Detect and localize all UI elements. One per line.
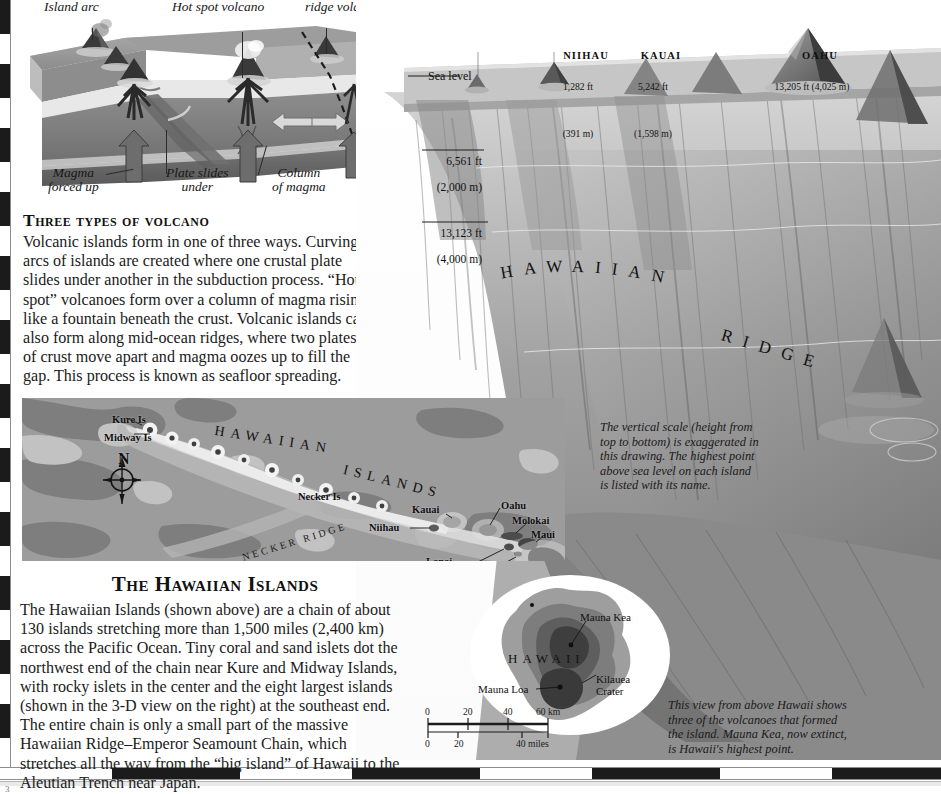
scale-km-20: 20 (463, 706, 473, 717)
depth-m: (2,000 m) (437, 181, 482, 193)
hawaii-inset-label-kilauea-crater: Kilauea Crater (596, 673, 630, 697)
hawaii-inset-island-name: HAWAII (508, 651, 585, 667)
page-marker: 3 (5, 784, 10, 794)
ridge-island-label-niihau: NIIHAU 1,282 ft (391 m) (540, 27, 616, 175)
leader-island-arc (92, 28, 93, 40)
ridge-island-name: OAHU (802, 50, 838, 61)
depth-m: (4,000 m) (437, 253, 482, 265)
hawaii-inset-label-mauna-loa: Mauna Loa (478, 683, 528, 695)
label-plate-slides-under: Plate slides under (166, 166, 229, 194)
map-label-kauai: Kauai (412, 504, 439, 515)
ridge-island-name: KAUAI (641, 50, 682, 61)
label-magma-forced-up: Magma forced up (48, 166, 99, 194)
scale-km-40: 40 (503, 706, 513, 717)
hawaiian-islands-body: The Hawaiian Islands (shown above) are a… (20, 600, 400, 792)
label-island-arc: Island arc (44, 0, 99, 14)
map-label-midway-is: Midway Is (104, 432, 152, 443)
three-types-heading: Three types of volcano (23, 210, 373, 231)
map-label-kure-is: Kure Is (112, 414, 146, 425)
hawaii-inset-label-mauna-kea: Mauna Kea (580, 611, 631, 623)
map-label-necker-is: Necker Is (298, 491, 341, 502)
page-root: 3 (0, 0, 941, 794)
map-label-maui: Maui (531, 529, 555, 540)
map-label-niihau: Niihau (369, 522, 399, 533)
caption-vertical-scale: The vertical scale (height from top to b… (600, 420, 760, 493)
ridge-island-height-ft: 1,282 ft (540, 81, 616, 92)
left-edge-strip (0, 0, 11, 770)
three-types-section: Three types of volcano Volcanic islands … (23, 210, 373, 386)
scale-km-60: 60 km (536, 706, 560, 717)
leader-ridge-volcano (326, 28, 327, 54)
depth-label-2000m: 6,561 ft (2,000 m) (416, 142, 482, 207)
map-scale-bar: 0 20 40 60 km 0 20 40 miles (424, 706, 584, 750)
depth-ft: 6,561 ft (446, 155, 482, 167)
scale-km-0: 0 (425, 706, 430, 717)
depth-ft: 13,123 ft (440, 227, 482, 239)
hawaiian-islands-bathymetric-map: Kure Is Midway Is Necker Is Kauai Niihau… (22, 398, 565, 561)
compass-north-label: N (118, 450, 130, 468)
scale-miles-20: 20 (454, 738, 464, 749)
ridge-island-label-kauai: KAUAI 5,242 ft (1,598 m) (613, 27, 693, 175)
depth-label-4000m: 13,123 ft (4,000 m) (410, 214, 482, 279)
scale-miles-40: 40 miles (516, 738, 549, 749)
hawaiian-islands-heading: The Hawaiian Islands (20, 572, 410, 597)
ridge-island-height-ft: 5,242 ft (613, 81, 693, 92)
map-label-lanai: Lanai (426, 556, 452, 561)
leader-hot-spot (242, 32, 243, 78)
scale-miles-0: 0 (425, 738, 430, 749)
sea-level-label: Sea level (428, 69, 472, 84)
map-label-molokai: Molokai (512, 515, 549, 526)
ridge-island-label-oahu: OAHU 13,205 ft (4,025 m) (742, 27, 882, 128)
label-column-of-magma: Column of magma (272, 166, 326, 194)
three-types-body: Volcanic islands form in one of three wa… (23, 232, 373, 386)
ridge-island-height-m: (391 m) (540, 128, 616, 139)
caption-hawaii-view: This view from above Hawaii shows three … (668, 698, 848, 756)
label-hot-spot-volcano: Hot spot volcano (172, 0, 264, 14)
map-label-oahu: Oahu (501, 500, 526, 511)
ridge-island-name: NIIHAU (563, 50, 609, 61)
ridge-island-height-combined: 13,205 ft (4,025 m) (742, 81, 882, 92)
ridge-island-height-m: (1,598 m) (613, 128, 693, 139)
